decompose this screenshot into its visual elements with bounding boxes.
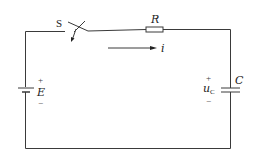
capacitor-voltage-label: uC (203, 82, 215, 96)
battery-plus-sign: + (38, 75, 43, 85)
capacitor-voltage-main: u (203, 82, 210, 95)
top-wire-middle (88, 30, 146, 32)
capacitor-minus-sign: − (206, 96, 211, 106)
resistor: R (146, 13, 163, 32)
rc-circuit-diagram: S R i + E − C + uC − (0, 0, 256, 160)
switch-label: S (56, 17, 62, 29)
capacitor-voltage-subscript: C (210, 88, 215, 96)
switch: S (56, 17, 88, 42)
switch-arrow-shaft (73, 29, 77, 39)
switch-blade (68, 22, 88, 31)
resistor-label: R (150, 13, 159, 26)
current-arrow-head-icon (150, 46, 157, 50)
battery-minus-sign: − (38, 98, 43, 108)
capacitor: C + uC − (203, 73, 244, 106)
capacitor-label: C (235, 74, 244, 87)
current-label: i (161, 42, 165, 55)
switch-arrow-head-icon (71, 37, 75, 42)
battery: + E − (18, 75, 45, 108)
current-indicator: i (108, 42, 165, 55)
resistor-body (146, 27, 163, 32)
